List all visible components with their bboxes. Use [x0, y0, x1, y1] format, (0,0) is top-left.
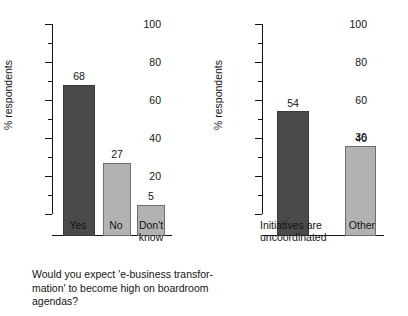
x-category-label-other: Other: [342, 220, 382, 232]
figure-two-bar-charts: 100 80 60 40 20 0 68 27 5 Yes No Don't k…: [0, 0, 408, 316]
x-category-label-initiatives-uncoordinated: Initiatives are uncoordinated: [260, 220, 336, 243]
y-tick-minor: [258, 119, 262, 120]
y-tick-major: [255, 138, 262, 139]
y-tick-major: [255, 100, 262, 101]
y-tick-minor: [48, 81, 52, 82]
y-tick-minor: [48, 119, 52, 120]
bar-value-other: 36: [355, 132, 367, 143]
y-tick-major: [45, 214, 52, 215]
y-tick-major: [45, 138, 52, 139]
y-tick-major: [45, 24, 52, 25]
x-category-label-dont-know: Don't know: [130, 220, 172, 243]
x-category-label-yes: Yes: [57, 220, 99, 232]
y-tick-minor: [48, 157, 52, 158]
plot-area-right: 100 80 60 40 20 0 54 36 Initiatives are …: [262, 24, 378, 214]
bars-group-right: 54 36: [263, 24, 384, 236]
y-tick-major: [45, 176, 52, 177]
y-tick-minor: [48, 195, 52, 196]
bar-value-dont-know: 5: [148, 191, 154, 202]
y-tick-major: [45, 100, 52, 101]
bar-value-yes: 68: [73, 71, 85, 82]
bar-initiatives-uncoordinated: [277, 111, 309, 236]
chart-panel-left: 100 80 60 40 20 0 68 27 5 Yes No Don't k…: [0, 0, 204, 316]
plot-area-left: 100 80 60 40 20 0 68 27 5 Yes No Don't k…: [52, 24, 172, 214]
y-axis-title-right: % respondents: [212, 60, 224, 130]
bar-value-no: 27: [111, 149, 123, 160]
bars-group-left: 68 27 5: [53, 24, 172, 236]
bar-yes: [63, 85, 95, 236]
y-tick-major: [255, 62, 262, 63]
y-tick-major: [255, 176, 262, 177]
bar-value-initiatives-uncoordinated: 54: [287, 98, 299, 109]
y-tick-minor: [258, 157, 262, 158]
y-tick-major: [255, 24, 262, 25]
y-tick-minor: [258, 43, 262, 44]
y-tick-major: [45, 62, 52, 63]
chart-caption-left: Would you expect 'e-business transfor- m…: [32, 268, 218, 309]
chart-panel-right: 100 80 60 40 20 0 54 36 Initiatives are …: [204, 0, 408, 316]
y-tick-minor: [258, 81, 262, 82]
y-tick-major: [255, 214, 262, 215]
y-axis-title-left: % respondents: [2, 60, 14, 130]
y-tick-minor: [48, 43, 52, 44]
y-tick-minor: [258, 195, 262, 196]
